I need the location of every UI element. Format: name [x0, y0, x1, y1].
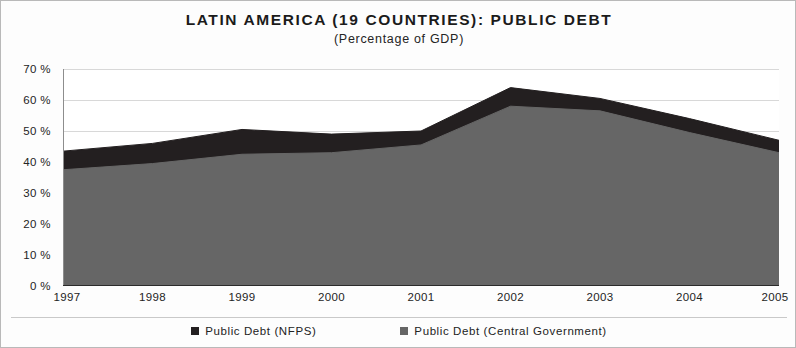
- x-tick-label: 2002: [497, 291, 524, 303]
- x-tick-label: 2003: [586, 291, 613, 303]
- chart-legend: Public Debt (NFPS)Public Debt (Central G…: [1, 325, 796, 337]
- x-tick-label: 1998: [139, 291, 166, 303]
- x-tick-label: 1997: [53, 291, 80, 303]
- x-axis: 199719981999200020012002200320042005: [63, 291, 779, 311]
- y-tick-label: 30 %: [23, 187, 51, 199]
- y-axis-line: [63, 69, 64, 286]
- area-series-group: [63, 69, 779, 286]
- legend-item[interactable]: Public Debt (Central Government): [400, 325, 606, 337]
- square-marker-icon: [191, 327, 199, 335]
- x-tick-label: 2000: [318, 291, 345, 303]
- y-axis: 0 %10 %20 %30 %40 %50 %60 %70 %: [1, 69, 57, 286]
- y-tick-label: 70 %: [23, 63, 51, 75]
- legend-item[interactable]: Public Debt (NFPS): [191, 325, 316, 337]
- chart-subtitle: (Percentage of GDP): [1, 32, 796, 46]
- y-tick-label: 50 %: [23, 125, 51, 137]
- chart-frame: LATIN AMERICA (19 COUNTRIES): PUBLIC DEB…: [0, 0, 796, 348]
- title-block: LATIN AMERICA (19 COUNTRIES): PUBLIC DEB…: [1, 11, 796, 46]
- x-axis-line: [63, 285, 779, 287]
- legend-label: Public Debt (NFPS): [205, 325, 316, 337]
- y-tick-label: 0 %: [30, 280, 51, 292]
- x-tick-label: 2004: [676, 291, 703, 303]
- chart-title: LATIN AMERICA (19 COUNTRIES): PUBLIC DEB…: [1, 11, 796, 29]
- y-tick-label: 40 %: [23, 156, 51, 168]
- x-tick-label: 1999: [228, 291, 255, 303]
- y-tick-label: 20 %: [23, 218, 51, 230]
- square-marker-icon: [400, 327, 408, 335]
- legend-label: Public Debt (Central Government): [414, 325, 606, 337]
- plot-area: [63, 69, 779, 286]
- y-tick-label: 10 %: [23, 249, 51, 261]
- x-tick-label: 2001: [407, 291, 434, 303]
- x-tick-label: 2005: [761, 291, 788, 303]
- y-tick-label: 60 %: [23, 94, 51, 106]
- legend-divider: [11, 317, 787, 318]
